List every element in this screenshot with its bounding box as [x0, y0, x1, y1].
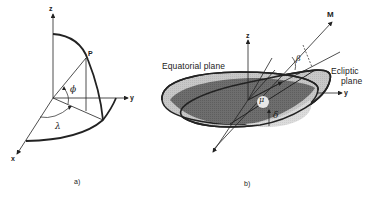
- meridian-arc: [53, 34, 103, 120]
- ecliptic-plane-label-line2: plane: [341, 77, 362, 86]
- caption-b: b): [244, 180, 250, 187]
- beta-label: β: [296, 55, 301, 63]
- delta-label: δ: [273, 111, 278, 120]
- z-axis-label: z: [246, 32, 250, 39]
- celestial-planes-diagram: [140, 0, 375, 197]
- equator-projection-line: [53, 98, 103, 120]
- y-axis-label: y: [130, 94, 134, 101]
- x-axis: [17, 98, 53, 154]
- m-axis-label: M: [327, 11, 334, 19]
- y-axis-label: y: [344, 89, 348, 96]
- mu-label: μ: [259, 96, 264, 104]
- point-p-label: P: [88, 50, 93, 57]
- caption-a: a): [74, 178, 80, 185]
- spherical-coordinates-diagram: [0, 0, 140, 197]
- ecliptic-plane-label-line1: Ecliptic: [331, 67, 359, 76]
- phi-label: ϕ: [70, 85, 76, 94]
- equatorial-plane-label: Equatorial plane: [162, 62, 225, 71]
- lambda-label: λ: [55, 122, 61, 131]
- panel-b-celestial-planes: z y M Equatorial plane Ecliptic plane β …: [140, 0, 375, 197]
- x-axis-label: x: [11, 155, 15, 162]
- panel-a-spherical-coordinates: z y x P ϕ λ a): [0, 0, 140, 197]
- z-axis-label: z: [49, 5, 53, 12]
